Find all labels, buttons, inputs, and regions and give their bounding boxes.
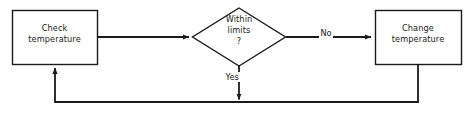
node-change-temperature bbox=[376, 11, 462, 65]
edge-label-no: No bbox=[319, 28, 333, 38]
edge-label-yes: Yes bbox=[224, 72, 240, 82]
node-check-temperature bbox=[13, 11, 98, 65]
flowchart-vector-layer bbox=[0, 0, 472, 114]
edge-feedback-loop bbox=[55, 64, 418, 102]
node-within-limits bbox=[193, 8, 286, 66]
flowchart-diagram: Check temperature Within limits ? Change… bbox=[0, 0, 472, 114]
